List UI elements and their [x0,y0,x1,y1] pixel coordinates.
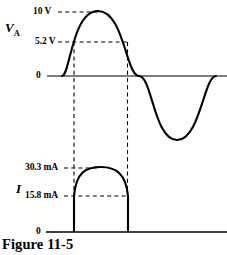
voltage-signal-label-subscript: A [14,28,20,38]
voltage-threshold-tick-label: 5.2 V [35,37,55,47]
current-signal-label: I [16,182,21,195]
current-peak-tick-label: 30.3 mA [25,163,58,173]
voltage-signal-label: VA [5,21,20,37]
voltage-signal-label-text: V [5,20,14,35]
voltage-peak-tick-label: 10 V [33,7,51,17]
figure-11-5: VA 10 V 5.2 V 0 I 30.3 mA 15.8 mA 0 Figu… [0,0,227,255]
figure-caption: Figure 11-5 [2,236,73,253]
voltage-zero-tick-label: 0 [36,71,41,81]
current-threshold-tick-label: 15.8 mA [25,191,58,201]
current-pulse-waveform [74,167,128,232]
